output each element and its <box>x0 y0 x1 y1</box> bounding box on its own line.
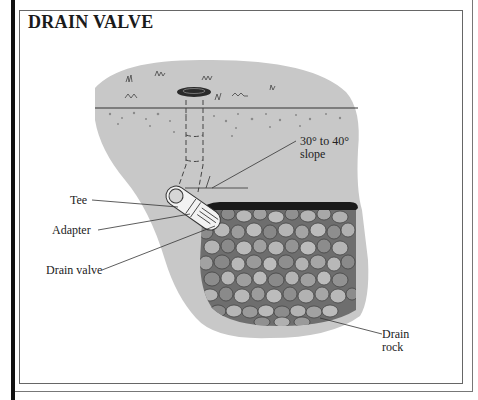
label-slope: 30° to 40° slope <box>300 135 349 161</box>
label-adapter: Adapter <box>52 224 91 237</box>
label-drain-rock: Drain rock <box>382 328 409 354</box>
label-tee: Tee <box>70 194 87 207</box>
label-drain-valve: Drain valve <box>46 264 102 277</box>
